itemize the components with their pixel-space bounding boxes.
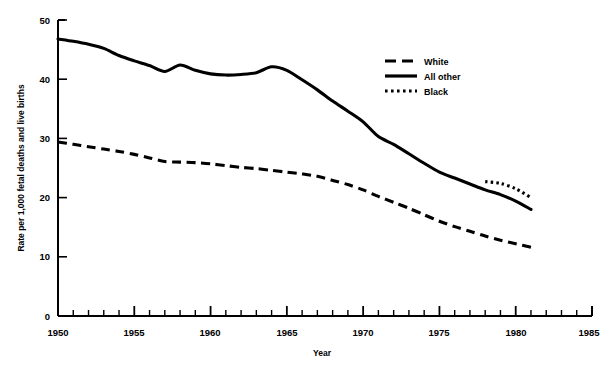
x-tick-label-1950: 1950 bbox=[47, 327, 68, 338]
fetal-mortality-chart: 50 40 30 20 10 0 Rate per 1,000 fetal de… bbox=[0, 0, 603, 368]
y-tick-label-50: 50 bbox=[39, 15, 50, 26]
x-tick-label-1960: 1960 bbox=[199, 327, 220, 338]
x-tick-label-1955: 1955 bbox=[123, 327, 145, 338]
x-axis-ticks bbox=[58, 306, 592, 316]
axis-lines bbox=[58, 20, 592, 316]
y-tick-label-40: 40 bbox=[39, 74, 50, 85]
y-tick-label-30: 30 bbox=[39, 133, 50, 144]
y-tick-label-20: 20 bbox=[39, 192, 50, 203]
x-tick-label-1975: 1975 bbox=[428, 327, 450, 338]
x-axis-title: Year bbox=[313, 348, 332, 358]
legend-label-white: White bbox=[424, 57, 449, 67]
series-line-all-other bbox=[58, 39, 531, 210]
y-tick-label-0: 0 bbox=[45, 311, 50, 322]
series-line-white bbox=[58, 142, 531, 247]
series-line-black bbox=[485, 182, 531, 198]
y-axis-title: Rate per 1,000 fetal deaths and live bir… bbox=[16, 84, 26, 252]
y-axis-ticks bbox=[58, 20, 67, 316]
data-series-group bbox=[58, 39, 531, 247]
x-tick-labels: 1950 1955 1960 1965 1970 1975 1980 1985 bbox=[47, 327, 600, 338]
y-tick-labels: 50 40 30 20 10 0 bbox=[39, 15, 50, 322]
legend-label-black: Black bbox=[424, 87, 449, 97]
chart-canvas: 50 40 30 20 10 0 Rate per 1,000 fetal de… bbox=[0, 0, 603, 368]
legend-label-all-other: All other bbox=[424, 72, 461, 82]
y-tick-label-10: 10 bbox=[39, 251, 50, 262]
x-tick-label-1965: 1965 bbox=[276, 327, 298, 338]
x-tick-label-1985: 1985 bbox=[578, 327, 600, 338]
legend: White All other Black bbox=[385, 57, 461, 97]
x-tick-label-1980: 1980 bbox=[505, 327, 526, 338]
x-tick-label-1970: 1970 bbox=[352, 327, 373, 338]
